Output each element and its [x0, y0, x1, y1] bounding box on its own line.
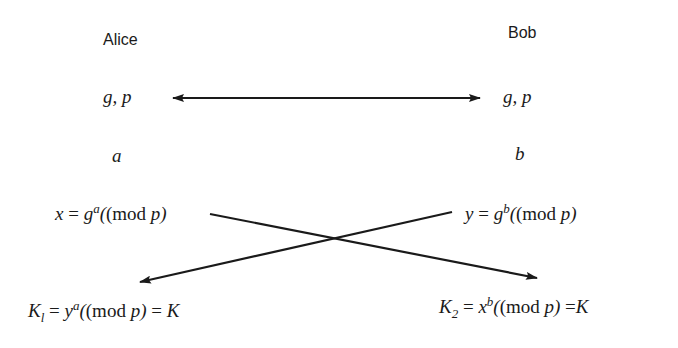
y-to-alice-arrow	[140, 212, 452, 282]
bob-secret: b	[515, 143, 525, 165]
bob-label: Bob	[508, 24, 536, 42]
alice-secret: a	[112, 145, 122, 167]
alice-sent-value: x = ga((mod p)	[55, 203, 167, 225]
diffie-hellman-diagram: Alice Bob g, p g, p a b x = ga((mod p) y…	[0, 0, 678, 348]
bob-shared-key: K2 = xb((mod p) =K	[439, 296, 589, 318]
alice-public-params: g, p	[103, 86, 132, 108]
alice-shared-key: Kl = ya((mod p) = K	[28, 300, 179, 322]
bob-public-params: g, p	[503, 86, 532, 108]
bob-sent-value: y = gb((mod p)	[465, 203, 577, 225]
alice-label: Alice	[103, 31, 138, 49]
